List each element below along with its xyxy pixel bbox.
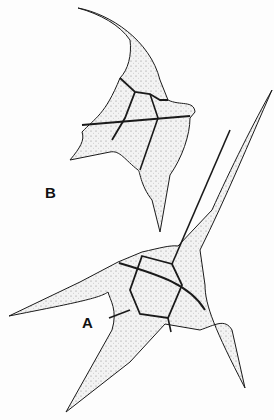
label-a: A (82, 314, 93, 331)
illustration (0, 0, 274, 420)
specimen-b (70, 8, 195, 232)
figure: B A (0, 0, 274, 420)
label-b: B (45, 184, 56, 201)
